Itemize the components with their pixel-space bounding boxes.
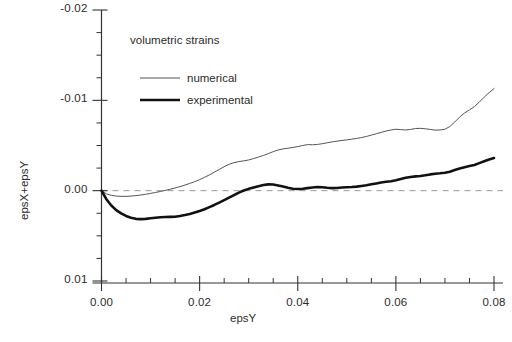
plot-area <box>0 0 512 342</box>
y-tick-label: 0.00 <box>0 183 88 195</box>
x-tick-label: 0.02 <box>175 296 225 308</box>
y-tick-label: -0.02 <box>0 2 88 14</box>
series-line-experimental <box>102 158 495 219</box>
x-tick-label: 0.06 <box>371 296 421 308</box>
x-axis-title: epsY <box>230 312 256 324</box>
x-tick-label: 0.04 <box>273 296 323 308</box>
legend-label-numerical: numerical <box>187 72 237 84</box>
y-tick-label: -0.01 <box>0 92 88 104</box>
legend-label-experimental: experimental <box>187 94 253 106</box>
y-tick-label: 0.01 <box>0 273 88 285</box>
series-line-numerical <box>102 89 495 197</box>
chart-figure: -0.02 -0.01 0.00 0.01 0.00 0.02 0.04 0.0… <box>0 0 512 342</box>
y-axis-title: epsX+epsY <box>18 161 30 220</box>
legend-heading: volumetric strains <box>130 34 219 46</box>
x-tick-label: 0.08 <box>469 296 512 308</box>
x-tick-label: 0.00 <box>77 296 127 308</box>
